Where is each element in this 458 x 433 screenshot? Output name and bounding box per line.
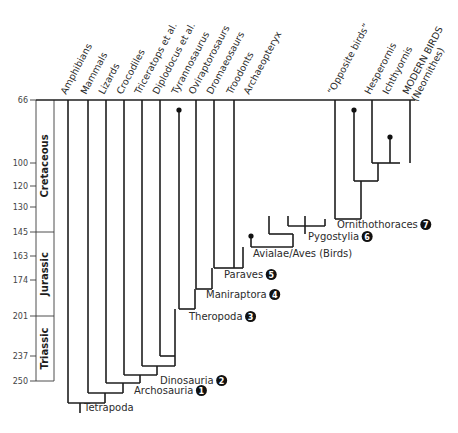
period-column: CretaceousJurassicTriassic <box>36 100 54 381</box>
clade-labels: TetrapodaArchosauria1Dinosauria2Theropod… <box>83 219 431 413</box>
period-label: Jurassic <box>39 252 50 297</box>
clade-name: Maniraptora <box>206 289 267 300</box>
clade-badge-number: 5 <box>268 271 274 280</box>
extinction-dot <box>248 233 253 238</box>
clade-label: Tetrapoda <box>83 402 134 413</box>
clade-label: Pygostylia6 <box>308 231 373 242</box>
clade-badge-number: 6 <box>364 233 370 242</box>
extinction-dot <box>176 107 181 112</box>
tree-branches <box>36 100 415 413</box>
period-label: Cretaceous <box>39 134 50 197</box>
clade-name: Archosauria <box>134 385 193 396</box>
axis-tick-label: 201 <box>13 312 28 321</box>
clade-badge-number: 2 <box>219 377 225 386</box>
clade-name: Paraves <box>224 269 263 280</box>
period-label: Triassic <box>39 327 50 369</box>
clade-label: Maniraptora4 <box>206 289 280 300</box>
taxon-labels: AmphibiansMammalsLizardsCrocodilesTricer… <box>58 21 455 103</box>
clade-badge-number: 3 <box>248 313 254 322</box>
axis-tick-label: 250 <box>13 377 28 386</box>
extinction-dot <box>387 134 392 139</box>
axis-tick-label: 130 <box>13 203 28 212</box>
clade-label: Theropoda3 <box>188 311 256 322</box>
clade-label: Archosauria1 <box>134 385 207 396</box>
clade-name: Dinosauria <box>160 375 214 386</box>
clade-badge-number: 7 <box>423 221 429 230</box>
clade-label: Paraves5 <box>224 269 277 280</box>
clade-label: Avialae/Aves (Birds) <box>253 248 352 259</box>
axis-tick-label: 120 <box>13 182 28 191</box>
clade-label: Ornithothoraces7 <box>337 219 431 230</box>
clade-name: Tetrapoda <box>83 402 134 413</box>
taxon-label: MODERN BIRDS(Neornithes) <box>399 25 455 103</box>
clade-name: Theropoda <box>188 311 243 322</box>
axis-tick-label: 174 <box>13 276 28 285</box>
axis-tick-label: 100 <box>13 159 28 168</box>
axis-tick-label: 163 <box>13 252 28 261</box>
clade-name: Pygostylia <box>308 231 359 242</box>
clade-label: Dinosauria2 <box>160 375 227 386</box>
axis-tick-label: 237 <box>13 352 28 361</box>
clade-badge-number: 4 <box>272 291 278 300</box>
clade-badge-number: 1 <box>199 387 205 396</box>
clade-name: Ornithothoraces <box>337 219 418 230</box>
cladogram: 66100120130145163174201237250 Cretaceous… <box>0 0 458 433</box>
clade-name: Avialae/Aves (Birds) <box>253 248 352 259</box>
axis-tick-label: 66 <box>18 96 28 105</box>
extinction-dot <box>351 107 356 112</box>
axis-tick-label: 145 <box>13 228 28 237</box>
